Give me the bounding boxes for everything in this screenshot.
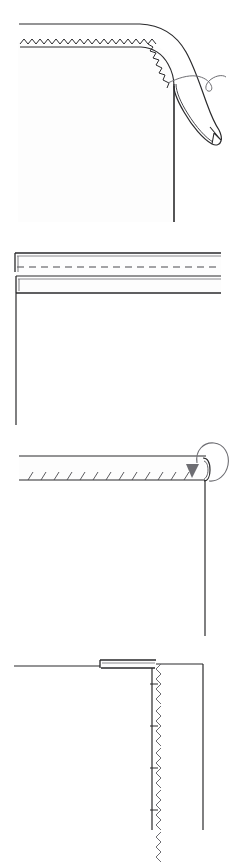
vertical-zigzag-serging — [156, 664, 161, 862]
hem-band — [16, 253, 221, 293]
panel-1-rolled-edge-peeled-corner — [0, 0, 237, 222]
panel-2-artwork — [0, 222, 237, 430]
hem-band — [19, 456, 205, 480]
panel-4-artwork — [0, 640, 237, 866]
panel-4-vertical-serged-seam — [0, 640, 237, 866]
panel-1-artwork — [0, 0, 237, 222]
rolled-strip-inner — [176, 84, 213, 142]
rolled-strip-outer — [174, 84, 222, 145]
folded-tab — [100, 660, 156, 668]
fabric-body — [18, 42, 172, 222]
figure-sheet: Hem Finishing Technique Fabric corner wi… — [0, 0, 237, 866]
serge-tick-marks — [150, 684, 158, 810]
panel-3-artwork — [0, 430, 237, 640]
panel-3-rolling-hem-direction — [0, 430, 237, 640]
panel-2-folded-hem-with-topstitch — [0, 222, 237, 430]
